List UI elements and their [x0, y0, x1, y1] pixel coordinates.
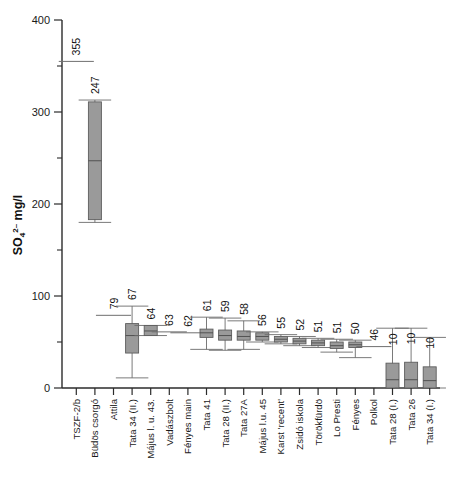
series-group [134, 325, 167, 335]
value-label-group: 52 [294, 319, 306, 331]
box-rect [126, 324, 139, 353]
y-tick-label: 300 [32, 106, 50, 118]
y-tick-label: 0 [44, 382, 50, 394]
x-axis-label: Május l.u. 45 [257, 399, 268, 453]
value-label: 355 [70, 38, 82, 56]
x-axis-label: TSZF-2/b [71, 399, 82, 440]
value-label: 10 [405, 332, 417, 344]
value-label-group: 10 [387, 333, 399, 345]
value-label: 55 [275, 317, 287, 329]
x-axis-label-group: Fényes [350, 399, 361, 431]
plot-area: 0100200300400SO42– mg/l355TSZF-2/b247Büd… [0, 0, 456, 484]
value-label: 51 [312, 320, 324, 332]
box-rect [423, 367, 436, 388]
series-group [302, 338, 335, 347]
value-label-group: 355 [70, 38, 82, 56]
x-axis-label-group: Fényes main [182, 399, 193, 454]
value-label-group: 10 [424, 337, 436, 349]
x-axis-label: Attila [108, 398, 119, 420]
x-axis-label-group: Karst 'recent' [275, 399, 286, 455]
x-axis-label: Tata 28 (II.) [220, 399, 231, 448]
box-rect [200, 329, 213, 337]
value-label: 58 [238, 303, 250, 315]
x-axis-label: Fényes [350, 399, 361, 431]
x-axis-label: Tata 34 (I.) [424, 399, 435, 445]
x-axis-label-group: Tata 28 (II.) [220, 399, 231, 448]
svg-text:SO42– mg/l: SO42– mg/l [11, 195, 27, 256]
x-axis-label-group: Büdös csorgó [89, 399, 100, 458]
x-axis-label: Polkol [368, 399, 379, 425]
x-axis-label-group: Tata 34 (I.) [424, 399, 435, 445]
value-label: 79 [108, 297, 120, 309]
value-label: 61 [201, 299, 213, 311]
x-axis-label-group: Tata 27A [238, 398, 249, 436]
value-label-group: 10 [405, 332, 417, 344]
value-label-group: 67 [126, 288, 138, 300]
x-axis-label: Tata 41 [201, 399, 212, 430]
y-tick-label: 200 [32, 198, 50, 210]
x-axis-label: Tata 26 [406, 399, 417, 430]
x-axis-label: Tata 27A [238, 398, 249, 436]
value-label: 46 [368, 329, 380, 341]
x-axis-label: Karst 'recent' [275, 399, 286, 455]
x-axis-label-group: Tata 26 [406, 399, 417, 430]
value-label-group: 56 [256, 314, 268, 326]
value-label: 247 [89, 76, 101, 94]
y-axis-title: SO42– mg/l [11, 195, 27, 256]
y-tick-label: 100 [32, 290, 50, 302]
x-axis-label-group: Polkol [368, 399, 379, 425]
x-axis-label: Tata 28 (I.) [387, 399, 398, 445]
x-axis-label-group: Lo Presti [331, 399, 342, 437]
x-axis-label-group: Május l.u. 45 [257, 399, 268, 453]
x-axis-label-group: Zsidó iskola [294, 398, 305, 449]
x-axis-label: Május l. u. 43. [145, 399, 156, 459]
value-label: 10 [387, 333, 399, 345]
y-tick-label: 400 [32, 14, 50, 26]
box-rect [144, 325, 157, 335]
box-rect [237, 331, 250, 340]
value-label: 51 [331, 321, 343, 333]
value-label-group: 51 [312, 320, 324, 332]
x-axis-label-group: Törökfürdö [313, 399, 324, 445]
value-label: 10 [424, 337, 436, 349]
value-label: 52 [294, 319, 306, 331]
x-axis-label: Zsidó iskola [294, 398, 305, 449]
box-rect [405, 362, 418, 388]
x-axis-label: Törökfürdö [313, 399, 324, 445]
x-axis-label-group: Május l. u. 43. [145, 399, 156, 459]
box-rect [330, 342, 343, 348]
series-group [339, 340, 372, 357]
x-axis-label-group: Tata 28 (I.) [387, 399, 398, 445]
value-label-group: 58 [238, 303, 250, 315]
value-label-group: 247 [89, 76, 101, 94]
x-axis-label-group: Tata 34 (II.) [127, 399, 138, 448]
series-group [79, 100, 112, 222]
value-label-group: 64 [145, 308, 157, 320]
value-label: 64 [145, 308, 157, 320]
value-label-group: 55 [275, 317, 287, 329]
x-axis-label-group: Attila [108, 398, 119, 420]
value-label: 56 [256, 314, 268, 326]
series-group [283, 336, 316, 345]
x-axis-label-group: TSZF-2/b [71, 399, 82, 440]
x-axis-label: Vadászbolt [164, 399, 175, 446]
series-group [227, 321, 260, 350]
value-label: 63 [163, 314, 175, 326]
box-rect [219, 330, 232, 340]
value-label-group: 79 [108, 297, 120, 309]
value-label-group: 59 [219, 300, 231, 312]
series-group [116, 306, 149, 378]
sulfate-box-plot-chart: 0100200300400SO42– mg/l355TSZF-2/b247Büd… [0, 0, 456, 484]
series-group [320, 339, 353, 352]
value-label: 50 [349, 322, 361, 334]
value-label-group: 61 [201, 299, 213, 311]
x-axis-label-group: Tata 41 [201, 399, 212, 430]
value-label: 67 [126, 288, 138, 300]
x-axis-label: Lo Presti [331, 399, 342, 437]
x-axis-label-group: Vadászbolt [164, 399, 175, 446]
series-group [209, 318, 242, 350]
value-label-group: 50 [349, 322, 361, 334]
x-axis-label: Tata 34 (II.) [127, 399, 138, 448]
value-label-group: 46 [368, 329, 380, 341]
series-group [265, 335, 298, 344]
